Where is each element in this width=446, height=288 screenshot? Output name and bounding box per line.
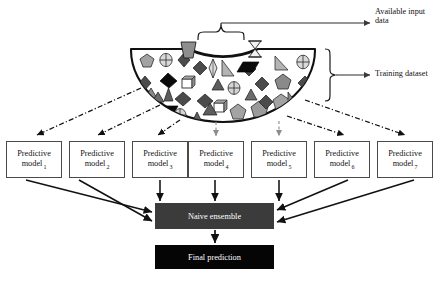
predictive-model-box-7[interactable]: Predictive model7 (377, 141, 433, 178)
predictive-model-index: 5 (287, 164, 291, 170)
final-prediction-label: Final prediction (188, 253, 241, 262)
predictive-model-line2: model2 (85, 159, 110, 171)
dataset-to-model-arrows-light (216, 121, 279, 136)
shape-circle-cross (174, 109, 186, 122)
shape-square-3d (300, 94, 313, 97)
shape-circle-cross (297, 55, 309, 69)
shape-square (214, 103, 224, 112)
predictive-model-line1: Predictive (388, 149, 422, 159)
predictive-model-index: 2 (105, 164, 109, 170)
predictive-model-line1: Predictive (17, 149, 51, 159)
predictive-model-index: 3 (168, 164, 172, 170)
arrow-to-model-1 (37, 88, 141, 135)
shape-circle-cross (160, 53, 172, 66)
predictive-model-index: 4 (224, 164, 228, 170)
predictive-model-line2: model3 (148, 159, 173, 171)
brace-training-dataset (325, 49, 335, 101)
label-available-input-data: Available input data (375, 7, 445, 25)
shape-trapezoid (181, 42, 196, 58)
predictive-model-box-2[interactable]: Predictive model2 (69, 141, 125, 178)
predictive-model-line2: model5 (267, 159, 292, 171)
shape-square-3d (310, 94, 313, 106)
predictive-model-line2: model1 (22, 159, 47, 171)
predictive-model-box-4[interactable]: Predictive model4 (188, 141, 244, 178)
final-prediction-box[interactable]: Final prediction (155, 245, 274, 269)
predictive-model-line2: model4 (204, 159, 229, 171)
predictive-model-line1: Predictive (262, 149, 296, 159)
shape-triangle (152, 106, 166, 118)
predictive-model-line2: model6 (330, 159, 355, 171)
arrow-model-2-ensemble (79, 180, 152, 221)
predictive-model-line1: Predictive (199, 149, 233, 159)
predictive-model-line2: model7 (393, 159, 418, 171)
naive-ensemble-label: Naive ensemble (188, 212, 241, 221)
predictive-model-line1: Predictive (325, 149, 359, 159)
predictive-model-box-3[interactable]: Predictive model3 (132, 141, 188, 178)
brace-available-input (198, 26, 244, 40)
arrow-to-model-7 (305, 100, 405, 135)
naive-ensemble-box[interactable]: Naive ensemble (155, 203, 274, 229)
arrow-to-model-3 (158, 120, 180, 135)
shape-circle-cross (228, 82, 240, 95)
predictive-model-index: 1 (42, 164, 46, 170)
predictive-model-box-6[interactable]: Predictive model6 (314, 141, 370, 178)
shape-square (182, 79, 192, 88)
predictive-model-line1: Predictive (80, 149, 114, 159)
arrow-model-6-ensemble (277, 180, 348, 210)
predictive-model-index: 7 (413, 164, 417, 170)
label-training-dataset: Training dataset (375, 69, 445, 78)
predictive-model-line1: Predictive (143, 149, 177, 159)
predictive-model-box-5[interactable]: Predictive model5 (251, 141, 307, 178)
predictive-model-index: 6 (350, 164, 354, 170)
arrow-to-model-6 (287, 116, 344, 135)
arrow-to-model-2 (98, 105, 160, 135)
diagram-canvas: Available input data Training dataset Pr… (0, 0, 446, 288)
predictive-model-box-1[interactable]: Predictive model1 (6, 141, 62, 178)
